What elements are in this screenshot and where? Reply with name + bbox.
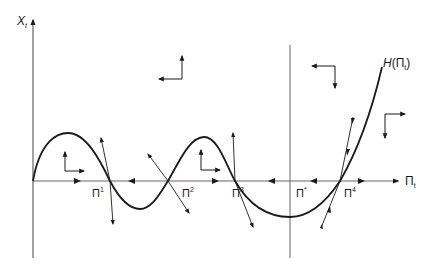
equilibrium-label-pi4: Π4	[344, 186, 356, 199]
y-axis-label: Xt	[17, 14, 27, 29]
direction-field-region-5	[385, 114, 405, 138]
h-curve-label: H(Πt)	[383, 56, 410, 71]
direction-field-region-1	[65, 152, 84, 171]
equilibrium-label-pi2: Π2	[182, 186, 194, 199]
equilibrium-label-pi1: Π1	[92, 186, 104, 199]
equilibrium-label-pi-star: Π*	[296, 186, 307, 199]
h-curve	[33, 67, 382, 217]
direction-field-region-3	[201, 150, 220, 170]
separatrix-pi2	[148, 154, 189, 213]
direction-field-region-2	[159, 56, 182, 79]
phase-diagram	[0, 0, 427, 271]
separatrix-pi3	[233, 133, 253, 227]
separatrix-pi4	[320, 117, 355, 229]
x-axis-label: Πt	[405, 174, 416, 189]
direction-field-region-4	[312, 66, 335, 88]
equilibrium-label-pi3: Π3	[232, 186, 244, 199]
